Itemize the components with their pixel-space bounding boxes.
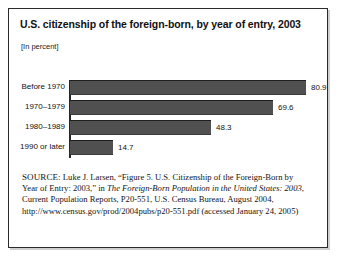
category-label: 1990 or later: [0, 142, 65, 152]
chart-row: 1980–1989 48.3: [9, 119, 327, 138]
bar-value-label: 80.9: [311, 83, 327, 93]
bar: [70, 100, 273, 115]
chart-row: 1970–1979 69.6: [9, 99, 327, 118]
source-note: SOURCE: Luke J. Larsen, “Figure 5. U.S. …: [22, 172, 310, 217]
category-label: 1970–1979: [0, 102, 65, 112]
category-label: 1980–1989: [0, 122, 65, 132]
figure-units-note: [In percent]: [21, 42, 59, 51]
bar: [70, 80, 306, 95]
chart-row: Before 1970 80.9: [9, 79, 327, 98]
figure-frame: U.S. citizenship of the foreign-born, by…: [8, 8, 328, 248]
chart-row: 1990 or later 14.7: [9, 139, 327, 158]
bar-chart-plot-area: Before 1970 80.9 1970–1979 69.6 1980–198…: [9, 71, 327, 163]
bar: [70, 140, 113, 155]
source-label: SOURCE:: [22, 172, 61, 182]
bar-value-label: 48.3: [216, 123, 232, 133]
category-label: Before 1970: [0, 82, 65, 92]
source-publication-title: The Foreign-Born Population in the Unite…: [107, 183, 302, 193]
figure-title: U.S. citizenship of the foreign-born, by…: [20, 18, 320, 30]
bar-value-label: 69.6: [278, 103, 294, 113]
bar: [70, 120, 211, 135]
bar-value-label: 14.7: [118, 143, 134, 153]
